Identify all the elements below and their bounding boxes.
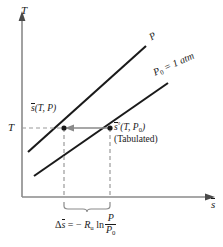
- y-axis-label: T: [21, 5, 27, 16]
- state-point-label-p-rest: (T, P): [35, 103, 56, 113]
- state-point-label-p0-close: ): [142, 122, 145, 132]
- tabulated-note: (Tabulated): [114, 135, 158, 145]
- entropy-change-equation: Δs = − Ru lnPP0: [55, 213, 116, 236]
- state-point-label-p0: s°(T, P0): [114, 122, 145, 133]
- equation-denominator: P0: [105, 225, 117, 236]
- equation-ln: ln: [94, 219, 104, 230]
- y-axis-tick-label-temperature: T: [8, 122, 14, 133]
- equation-s-symbol: s: [61, 220, 65, 230]
- diagram-canvas: [0, 0, 223, 247]
- state-point-label-p0-open: (T, P: [120, 122, 138, 132]
- equation-denominator-subscript: 0: [112, 228, 115, 235]
- equation-equals: = −: [65, 219, 84, 230]
- state-point-marker-p0: [107, 125, 112, 130]
- state-point-label-p: s(T, P): [31, 104, 56, 114]
- x-axis-label: s: [211, 199, 215, 210]
- x-axis-label-symbol: s: [211, 199, 215, 210]
- equation-fraction: PP0: [105, 213, 117, 236]
- state-point-marker-p: [61, 125, 66, 130]
- entropy-difference-brace: [64, 202, 110, 212]
- entropy-pressure-diagram: T s T P P0 = 1 atm s(T, P) s°(T, P0) (Ta…: [0, 0, 223, 247]
- state-point-label-p-symbol: s: [31, 104, 35, 114]
- state-point-label-p0-symbol: s: [114, 123, 118, 133]
